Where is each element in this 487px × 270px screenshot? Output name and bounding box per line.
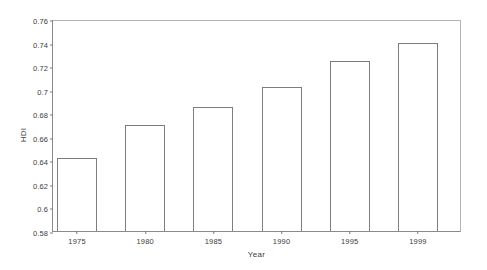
x-axis-tick-mark — [213, 231, 214, 234]
y-axis-tick: 0.7 — [37, 87, 53, 96]
x-axis-tick: 1995 — [341, 231, 359, 246]
x-axis-tick: 1975 — [68, 231, 86, 246]
x-axis-title: Year — [52, 250, 461, 259]
x-axis-tick-label: 1985 — [205, 237, 223, 246]
x-axis-tick-mark — [281, 231, 282, 234]
y-axis-title: HDI — [19, 128, 28, 143]
y-axis-tick: 0.74 — [33, 40, 53, 49]
y-axis-tick-label: 0.58 — [33, 229, 50, 238]
y-axis-tick: 0.62 — [33, 181, 53, 190]
x-axis-tick: 1985 — [205, 231, 223, 246]
y-axis-tick: 0.64 — [33, 158, 53, 167]
x-axis-tick-label: 1990 — [273, 237, 291, 246]
y-axis-tick-mark — [50, 185, 53, 186]
y-axis-tick-mark — [50, 138, 53, 139]
x-axis-tick: 1980 — [137, 231, 155, 246]
bar — [330, 61, 370, 231]
y-axis-tick-label: 0.68 — [33, 111, 50, 120]
x-axis-tick-mark — [145, 231, 146, 234]
y-axis-tick-mark — [50, 91, 53, 92]
x-axis-tick-label: 1980 — [137, 237, 155, 246]
y-axis-tick-mark — [50, 44, 53, 45]
chart-screenshot: HDI 0.580.60.620.640.660.680.70.720.740.… — [0, 0, 487, 270]
x-axis-tick-mark — [349, 231, 350, 234]
bar — [193, 107, 233, 231]
y-axis-tick: 0.72 — [33, 64, 53, 73]
x-axis-tick: 1999 — [409, 231, 427, 246]
y-axis-tick-mark — [50, 209, 53, 210]
y-axis-tick-label: 0.7 — [37, 87, 50, 96]
y-axis-tick-label: 0.64 — [33, 158, 50, 167]
y-axis-tick: 0.66 — [33, 134, 53, 143]
x-axis-tick-mark — [77, 231, 78, 234]
bar — [262, 87, 302, 231]
y-axis-tick-mark — [50, 162, 53, 163]
bar — [57, 158, 97, 231]
y-axis-tick: 0.68 — [33, 111, 53, 120]
y-axis-tick-label: 0.74 — [33, 40, 50, 49]
x-axis-tick-label: 1975 — [68, 237, 86, 246]
y-axis-tick-label: 0.76 — [33, 17, 50, 26]
y-axis-tick-label: 0.6 — [37, 205, 50, 214]
bar — [398, 43, 438, 231]
y-axis-tick-label: 0.66 — [33, 134, 50, 143]
x-axis-tick: 1990 — [273, 231, 291, 246]
y-axis-tick-mark — [50, 21, 53, 22]
plot-area: 0.580.60.620.640.660.680.70.720.740.7619… — [52, 20, 461, 232]
x-axis-tick-label: 1995 — [341, 237, 359, 246]
y-axis-tick-mark — [50, 68, 53, 69]
y-axis-tick: 0.76 — [33, 17, 53, 26]
y-axis-tick-label: 0.72 — [33, 64, 50, 73]
y-axis-tick-mark — [50, 115, 53, 116]
y-axis-tick: 0.6 — [37, 205, 53, 214]
x-axis-tick-label: 1999 — [409, 237, 427, 246]
y-axis-tick-label: 0.62 — [33, 181, 50, 190]
bar — [125, 125, 165, 231]
x-axis-tick-mark — [417, 231, 418, 234]
y-axis-tick-mark — [50, 233, 53, 234]
y-axis-tick: 0.58 — [33, 229, 53, 238]
